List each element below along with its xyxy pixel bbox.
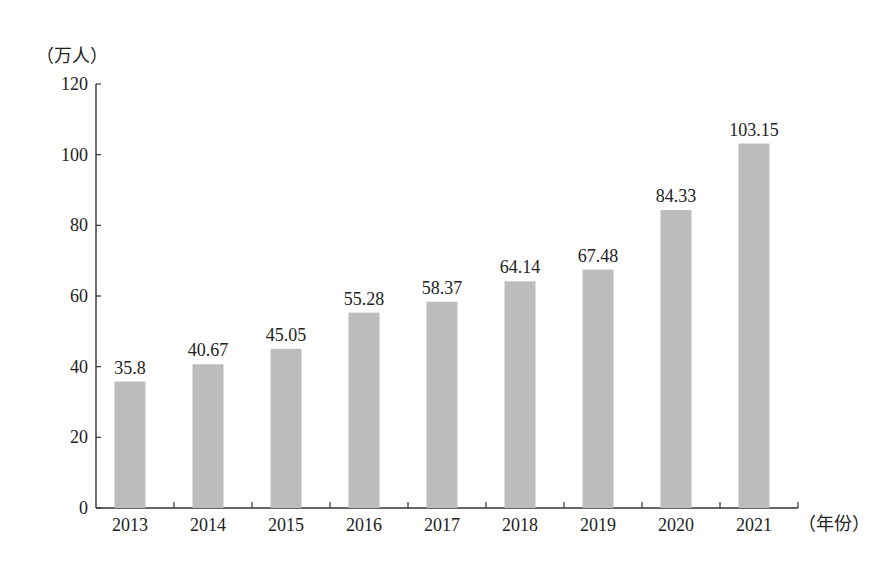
y-tick-label: 60 [70, 286, 88, 306]
x-tick-label: 2021 [736, 515, 772, 535]
bar-2013 [115, 382, 146, 508]
x-tick-label: 2017 [424, 515, 460, 535]
y-axis-unit-label: （万人） [36, 46, 108, 66]
bar-value-label: 67.48 [578, 246, 619, 266]
bar-2017 [427, 302, 458, 508]
x-axis-unit-label: （年份） [798, 514, 870, 534]
bar-value-label: 40.67 [188, 340, 229, 360]
bar-2016 [349, 313, 380, 508]
x-tick-label: 2018 [502, 515, 538, 535]
bars: 35.840.6745.0555.2858.3764.1467.4884.331… [114, 120, 779, 508]
bar-value-label: 103.15 [729, 120, 779, 140]
x-tick-label: 2014 [190, 515, 226, 535]
bar-value-label: 58.37 [422, 278, 463, 298]
y-axis: 020406080100120 [61, 74, 101, 518]
y-tick-label: 20 [70, 427, 88, 447]
x-tick-label: 2013 [112, 515, 148, 535]
y-tick-label: 0 [79, 498, 88, 518]
y-tick-label: 120 [61, 74, 88, 94]
x-tick-label: 2019 [580, 515, 616, 535]
bar-chart: （万人） 020406080100120 2013201420152016201… [0, 0, 894, 574]
bar-2014 [193, 364, 224, 508]
bar-value-label: 84.33 [656, 186, 697, 206]
bar-2015 [271, 349, 302, 508]
x-tick-label: 2015 [268, 515, 304, 535]
x-tick-label: 2020 [658, 515, 694, 535]
y-tick-label: 80 [70, 215, 88, 235]
x-tick-label: 2016 [346, 515, 382, 535]
bar-value-label: 55.28 [344, 289, 385, 309]
y-tick-label: 100 [61, 145, 88, 165]
bar-2020 [661, 210, 692, 508]
bar-value-label: 64.14 [500, 257, 541, 277]
bar-2019 [583, 270, 614, 508]
y-tick-label: 40 [70, 357, 88, 377]
bar-value-label: 35.8 [114, 358, 146, 378]
bar-2018 [505, 281, 536, 508]
bar-2021 [739, 144, 770, 508]
bar-value-label: 45.05 [266, 325, 307, 345]
